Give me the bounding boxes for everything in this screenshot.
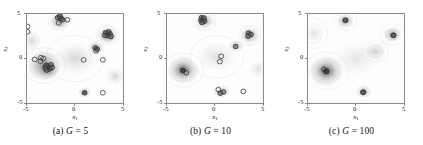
xtick-label-mid: 0 — [353, 106, 356, 113]
ytick-mark-mid — [305, 58, 307, 59]
ytick-label-bottom: -5 — [298, 99, 303, 106]
y-axis-label-sub: 2 — [144, 46, 149, 49]
x-axis-label-sub: 1 — [75, 116, 78, 121]
y-axis-label-a: x2 — [1, 46, 9, 52]
ytick-mark-mid — [24, 58, 26, 59]
ytick-mark-top — [24, 13, 26, 14]
xtick-label-left: -5 — [23, 106, 28, 113]
caption-symbol-a: G — [66, 126, 73, 136]
ytick-label-top: 5 — [298, 10, 301, 17]
ytick-mark-top — [164, 13, 166, 14]
data-points-b — [167, 14, 263, 103]
ytick-mark-top — [305, 13, 307, 14]
y-axis-label-sub: 2 — [4, 46, 9, 49]
data-points-c — [308, 14, 404, 103]
caption-equals-c: = — [352, 126, 357, 136]
ytick-label-mid: 0 — [19, 54, 22, 61]
x-axis-label-sub: 1 — [356, 116, 359, 121]
caption-b: (b) G = 10 — [140, 126, 281, 136]
y-axis-label-base: x — [282, 49, 290, 52]
xtick-label-mid: 0 — [72, 106, 75, 113]
y-axis-label-c: x2 — [282, 46, 290, 52]
data-points-a — [27, 14, 123, 103]
y-axis-label-b: x2 — [141, 46, 149, 52]
xtick-label-right: 5 — [261, 106, 264, 113]
xtick-label-right: 5 — [402, 106, 405, 113]
ytick-label-mid: 0 — [300, 54, 303, 61]
xtick-label-mid: 0 — [212, 106, 215, 113]
caption-value-a: 5 — [83, 126, 88, 136]
panel-b: 5 0 -5 -5 0 5 x1 x2 (b) G = 10 — [140, 0, 281, 145]
panel-c: 5 0 -5 -5 0 5 x1 x2 (c) G = 100 — [281, 0, 422, 145]
caption-value-b: 10 — [221, 126, 231, 136]
caption-equals-b: = — [213, 126, 218, 136]
plot-area-c — [307, 13, 405, 104]
xtick-label-left: -5 — [163, 106, 168, 113]
caption-value-c: 100 — [360, 126, 375, 136]
caption-prefix-c: (c) — [329, 126, 340, 136]
ytick-label-bottom: -5 — [157, 99, 162, 106]
x-axis-label-b: x1 — [140, 113, 290, 121]
plot-area-a — [26, 13, 124, 104]
caption-equals-a: = — [75, 126, 80, 136]
x-axis-label-c: x1 — [281, 113, 423, 121]
ytick-label-mid: 0 — [159, 54, 162, 61]
y-axis-label-base: x — [141, 49, 149, 52]
plot-area-b — [166, 13, 264, 104]
ytick-label-top: 5 — [17, 10, 20, 17]
figure-three-panel-density-scatter: 5 0 -5 -5 0 5 x1 x2 (a) G = 5 — [0, 0, 423, 145]
caption-c: (c) G = 100 — [281, 126, 422, 136]
caption-symbol-b: G — [204, 126, 211, 136]
y-axis-label-base: x — [1, 49, 9, 52]
ytick-mark-mid — [164, 58, 166, 59]
panel-a: 5 0 -5 -5 0 5 x1 x2 (a) G = 5 — [0, 0, 141, 145]
x-axis-label-sub: 1 — [215, 116, 218, 121]
caption-symbol-c: G — [342, 126, 349, 136]
x-axis-label-a: x1 — [0, 113, 150, 121]
caption-a: (a) G = 5 — [0, 126, 141, 136]
caption-prefix-a: (a) — [53, 126, 64, 136]
y-axis-label-sub: 2 — [285, 46, 290, 49]
ytick-label-bottom: -5 — [17, 99, 22, 106]
xtick-label-right: 5 — [121, 106, 124, 113]
xtick-label-left: -5 — [304, 106, 309, 113]
caption-prefix-b: (b) — [190, 126, 201, 136]
ytick-label-top: 5 — [157, 10, 160, 17]
